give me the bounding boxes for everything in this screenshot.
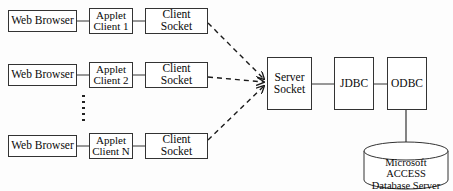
node-web-browser-1[interactable]: Web Browser <box>8 10 77 32</box>
node-client-socket-2[interactable]: Client Socket <box>145 62 208 88</box>
dashed-arrow-client1-to-server <box>208 23 264 79</box>
architecture-diagram: Web Browser Applet Client 1 Client Socke… <box>0 0 453 191</box>
node-client-socket-1[interactable]: Client Socket <box>145 8 208 34</box>
node-label: Server Socket <box>272 72 307 96</box>
vertical-ellipsis-icon <box>81 95 86 121</box>
node-database[interactable]: Microsoft ACCESS Database Server <box>363 142 449 189</box>
node-applet-client-1[interactable]: Applet Client 1 <box>89 8 133 34</box>
node-client-socket-n[interactable]: Client Socket <box>145 133 208 159</box>
dashed-arrow-client2-to-server <box>208 77 264 82</box>
node-label: ODBC <box>389 78 425 90</box>
node-label: Client Socket <box>159 63 194 87</box>
node-label: Web Browser <box>9 69 76 81</box>
node-web-browser-2[interactable]: Web Browser <box>8 64 77 86</box>
node-jdbc[interactable]: JDBC <box>334 57 374 110</box>
node-label: Applet Client 2 <box>91 64 130 87</box>
node-label: Applet Client N <box>90 135 132 158</box>
node-label: Client Socket <box>159 9 194 33</box>
node-web-browser-n[interactable]: Web Browser <box>8 135 77 157</box>
node-applet-client-n[interactable]: Applet Client N <box>89 133 133 159</box>
node-label: Applet Client 1 <box>91 10 130 33</box>
database-label: Microsoft ACCESS Database Server <box>363 157 449 191</box>
node-label: Web Browser <box>9 15 76 27</box>
dashed-arrow-client3-to-server <box>208 86 264 140</box>
node-label: JDBC <box>338 78 370 90</box>
node-label: Web Browser <box>9 140 76 152</box>
node-server-socket[interactable]: Server Socket <box>267 57 312 110</box>
node-odbc[interactable]: ODBC <box>387 57 427 110</box>
node-label: Client Socket <box>159 134 194 158</box>
node-applet-client-2[interactable]: Applet Client 2 <box>89 62 133 88</box>
